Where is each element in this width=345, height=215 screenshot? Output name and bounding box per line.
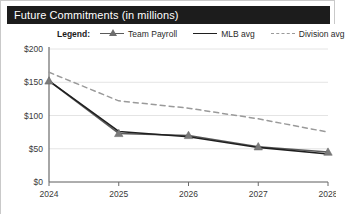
y-tick-label: $200 xyxy=(24,44,43,54)
series-line-division-avg xyxy=(49,72,328,132)
page-title: Future Commitments (in millions) xyxy=(14,9,179,21)
y-tick-label: $50 xyxy=(29,144,43,154)
y-tick-label: $150 xyxy=(24,77,43,87)
chart-gridlines xyxy=(49,49,328,182)
plot-area: Legend: Team Payroll MLB avg Division av xyxy=(1,24,336,215)
x-axis-tick-labels: 20242025202620272028 xyxy=(40,189,336,199)
x-tick-label: 2026 xyxy=(179,189,198,199)
x-tick-label: 2025 xyxy=(109,189,128,199)
series-line-team-payroll xyxy=(49,81,328,152)
x-tick-label: 2028 xyxy=(319,189,336,199)
chart-series xyxy=(49,72,328,154)
line-chart: $0$50$100$150$200 20242025202620272028 xyxy=(1,24,336,215)
x-tick-label: 2024 xyxy=(40,189,59,199)
y-axis-tick-labels: $0$50$100$150$200 xyxy=(24,44,43,187)
data-point-marker xyxy=(45,77,53,84)
x-tick-label: 2027 xyxy=(249,189,268,199)
y-tick-label: $0 xyxy=(34,177,44,187)
y-tick-label: $100 xyxy=(24,111,43,121)
series-line-mlb-avg xyxy=(49,81,328,154)
card-title-bar: Future Commitments (in millions) xyxy=(7,6,330,24)
chart-axis-lines xyxy=(49,47,328,186)
